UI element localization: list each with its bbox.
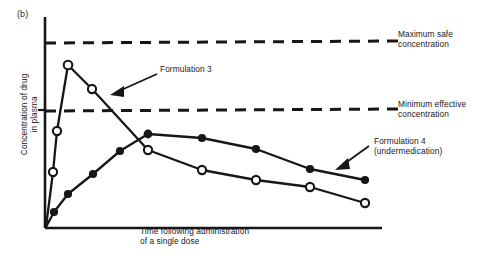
minimum-effective-concentration-label: Minimum effective concentration	[398, 99, 466, 120]
formulation-3-markers	[49, 61, 369, 207]
series-formulation-3	[46, 61, 369, 227]
y-axis-label: Concentration of drug in plasma	[19, 58, 40, 170]
figure-panel-b: (b) Maximum safe concentration Minimum e…	[0, 0, 485, 261]
series-formulation-4	[46, 130, 369, 227]
panel-label: (b)	[17, 9, 28, 19]
minimum-effective-concentration-line	[45, 109, 399, 111]
formulation-4-line	[46, 134, 365, 227]
formulation-3-annotation-label: Formulation 3	[160, 64, 212, 74]
formulation-4-annotation-label: Formulation 4 (undermedication)	[374, 136, 442, 157]
formulation-3-arrow	[110, 74, 157, 97]
maximum-safe-concentration-line	[45, 41, 399, 43]
formulation-4-arrow	[335, 146, 369, 170]
maximum-safe-concentration-label: Maximum safe concentration	[398, 29, 453, 50]
formulation-4-markers	[50, 130, 369, 216]
x-axis-label: Time following administration of a singl…	[140, 226, 249, 247]
